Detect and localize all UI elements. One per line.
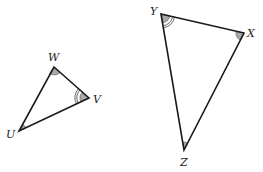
similar-triangles-diagram: W V U Y X Z — [0, 0, 263, 172]
vertex-label-y: Y — [150, 5, 159, 18]
angle-arc-v-2 — [77, 90, 80, 103]
vertex-label-w: W — [48, 51, 61, 64]
vertex-label-u: U — [6, 128, 16, 141]
triangle-xyz-edges — [161, 14, 244, 150]
triangle-uwv — [19, 67, 89, 131]
vertex-label-v: V — [93, 93, 102, 106]
triangle-xyz — [161, 14, 244, 150]
triangle-uwv-edges — [19, 67, 89, 131]
vertex-label-x: X — [246, 27, 256, 40]
vertex-label-z: Z — [179, 156, 188, 169]
